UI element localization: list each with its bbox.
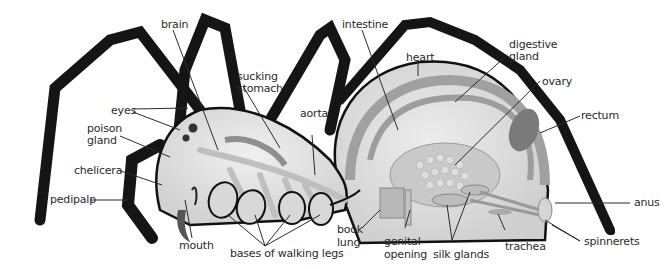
label-brain: brain [161, 18, 188, 31]
label-intestine: intestine [342, 18, 388, 31]
label-silk-glands: silk glands [433, 248, 489, 261]
label-book-lung-line1: book [337, 223, 363, 236]
label-book-lung-line2: lung [337, 236, 360, 249]
label-aorta: aorta [300, 107, 328, 120]
label-bases-of-walking-legs: bases of walking legs [230, 247, 344, 260]
label-sucking-stomach-line2: stomach [237, 82, 283, 95]
label-trachea: trachea [505, 240, 546, 253]
label-digestive-gland-line2: gland [509, 50, 539, 63]
label-spinnerets: spinnerets [584, 235, 640, 248]
label-ovary: ovary [542, 75, 572, 88]
label-genital-opening-line1: genital [384, 235, 421, 248]
label-pedipalp: pedipalp [50, 193, 96, 206]
label-anus: anus [634, 196, 660, 209]
label-heart: heart [406, 51, 434, 64]
label-genital-opening-line2: opening [384, 248, 427, 261]
label-chelicera: chelicera [74, 164, 122, 177]
label-poison-gland-line2: gland [87, 134, 117, 147]
label-eyes: eyes [111, 104, 136, 117]
label-mouth: mouth [179, 239, 214, 252]
label-rectum: rectum [581, 109, 619, 122]
spider-anatomy-diagram: brain sucking stomach intestine heart di… [0, 0, 671, 269]
